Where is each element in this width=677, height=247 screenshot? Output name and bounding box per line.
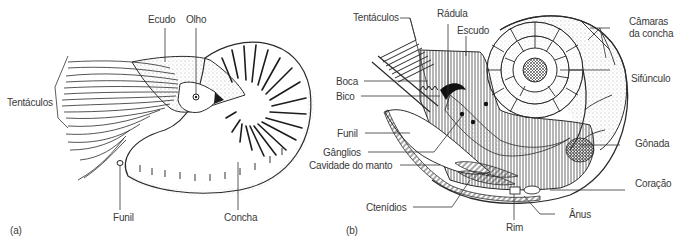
label-radula: Rádula [437,8,468,19]
label-sifunculo: Sifúnculo [631,73,670,84]
panel-a-tag: (a) [10,225,22,236]
kidney [510,187,520,194]
label-cavidade-manto: Cavidade do manto [309,160,392,171]
label-camaras-line2: da concha [629,28,673,39]
panel-b-tag: (b) [346,225,358,236]
label-escudo: Escudo [457,25,489,36]
label-camaras-line1: Câmaras [629,16,668,27]
panel-a-drawing [55,28,311,210]
label-rim: Rim [506,222,523,233]
label-funil-a: Funil [113,212,134,223]
label-ctenidios: Ctenídios [366,202,406,213]
label-tentaculos-b: Tentáculos [353,12,399,23]
label-ecudo: Ecudo [148,14,175,25]
label-coracao: Coração [635,178,671,189]
panel-b-drawing [361,16,628,220]
funnel-a [117,161,123,166]
label-gonada: Gônada [635,138,669,149]
label-anus: Ânus [569,209,591,220]
label-boca: Boca [336,76,358,87]
label-bico: Bico [336,91,355,102]
label-tentaculos-a: Tentáculos [7,97,53,108]
heart [524,186,540,194]
gonad [566,138,594,162]
label-olho: Olho [186,14,206,25]
label-concha: Concha [224,212,257,223]
label-ganglios: Gânglios [323,147,361,158]
label-funil-b: Funil [337,128,358,139]
